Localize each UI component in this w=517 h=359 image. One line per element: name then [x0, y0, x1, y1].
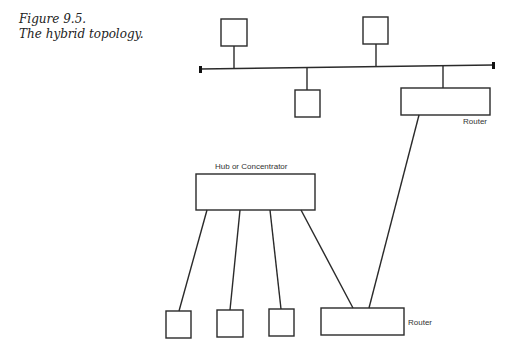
bus-terminator-left [199, 66, 202, 73]
hub-link-router [301, 210, 353, 308]
hub-workstation-3 [269, 309, 294, 336]
bus-workstation-3 [295, 90, 320, 117]
router-bottom [321, 308, 404, 335]
router-bottom-label: Router [408, 318, 432, 327]
hub-link-3 [270, 210, 281, 309]
router-to-router-link [369, 115, 419, 308]
router-top [401, 88, 490, 115]
hub-link-2 [230, 210, 240, 310]
hub-workstation-1 [166, 311, 191, 338]
bus-terminator-right [492, 62, 495, 69]
bus-backbone [200, 65, 493, 69]
hub-label: Hub or Concentrator [215, 162, 288, 171]
hub-workstation-2 [217, 310, 243, 337]
bus-workstation-1 [221, 19, 247, 46]
hub-box [196, 174, 315, 210]
bus-workstation-2 [363, 17, 388, 44]
hub-link-1 [179, 210, 207, 311]
router-top-label: Router [463, 117, 487, 126]
hybrid-topology-diagram: Router Hub or Concentrator Router [0, 0, 517, 359]
